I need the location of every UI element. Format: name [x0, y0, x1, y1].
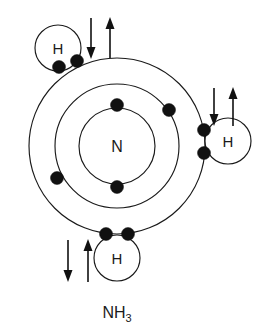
- molecule-canvas: N H H H: [0, 0, 260, 332]
- nitrogen-label: N: [111, 138, 123, 155]
- bond-electron-bottom-b: [122, 228, 135, 241]
- inner-shell-electron-bottom: [111, 181, 124, 194]
- spin-arrows-bottom: [64, 239, 93, 282]
- outer-electron-upper-right: [163, 104, 176, 117]
- spin-arrows-top: [87, 17, 115, 59]
- bond-electron-right-a: [198, 124, 211, 137]
- hydrogen-right-label: H: [223, 133, 234, 150]
- inner-shell-electron-top: [111, 99, 124, 112]
- spin-arrow-up-bottom: [84, 239, 93, 282]
- formula-caption: NH3: [102, 304, 131, 324]
- spin-arrow-down-top: [87, 18, 96, 59]
- hydrogen-top-left-label: H: [53, 40, 64, 57]
- outer-electron-lower-left: [51, 172, 64, 185]
- hydrogen-bottom-label: H: [112, 250, 123, 267]
- ammonia-shell-diagram: N H H H: [0, 0, 260, 332]
- spin-arrow-up-top: [106, 17, 115, 58]
- bond-electron-top-left-a: [53, 61, 66, 74]
- formula-subscript: 3: [125, 312, 131, 324]
- bond-electron-top-left-b: [71, 55, 84, 68]
- formula-base: NH: [102, 304, 125, 321]
- spin-arrow-down-bottom: [64, 240, 73, 282]
- bond-electron-right-b: [198, 147, 211, 160]
- bond-electron-bottom-a: [100, 228, 113, 241]
